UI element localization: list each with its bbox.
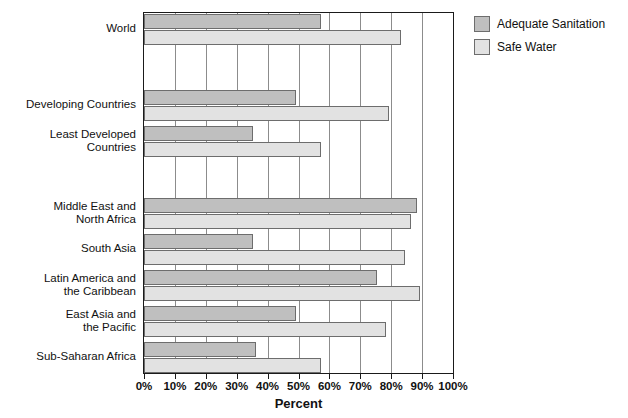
x-axis-title: Percent bbox=[143, 396, 454, 411]
category-label-2: Least Developed Countries bbox=[0, 128, 136, 155]
bar-water-row-4 bbox=[144, 250, 405, 265]
x-axis-tick-labels: 0%10%20%30%40%50%60%70%80%90%100% bbox=[143, 379, 454, 395]
bar-water-row-0 bbox=[144, 30, 401, 45]
bar-water-row-6 bbox=[144, 322, 386, 337]
category-label-5: Latin America and the Caribbean bbox=[0, 272, 136, 299]
tick-label-70pct: 70% bbox=[349, 379, 372, 393]
category-label-3: Middle East and North Africa bbox=[0, 200, 136, 227]
tick-label-50pct: 50% bbox=[287, 379, 310, 393]
category-label-4: South Asia bbox=[0, 242, 136, 256]
gridline-80pct bbox=[391, 13, 392, 373]
tick-label-90pct: 90% bbox=[411, 379, 434, 393]
category-axis-labels: WorldDeveloping CountriesLeast Developed… bbox=[0, 12, 136, 374]
bar-water-row-7 bbox=[144, 358, 321, 373]
bar-sanitation-row-0 bbox=[144, 14, 321, 29]
tick-label-60pct: 60% bbox=[318, 379, 341, 393]
bar-water-row-2 bbox=[144, 142, 321, 157]
tick-label-10pct: 10% bbox=[163, 379, 186, 393]
grouped-bar-chart: WorldDeveloping CountriesLeast Developed… bbox=[0, 0, 628, 418]
tick-label-20pct: 20% bbox=[194, 379, 217, 393]
plot-area bbox=[143, 12, 454, 374]
gridline-90pct bbox=[422, 13, 423, 373]
bar-sanitation-row-7 bbox=[144, 342, 256, 357]
gridline-50pct bbox=[299, 13, 300, 373]
bar-sanitation-row-5 bbox=[144, 270, 377, 285]
category-label-7: Sub-Saharan Africa bbox=[0, 350, 136, 364]
bar-water-row-5 bbox=[144, 286, 420, 301]
bar-sanitation-row-1 bbox=[144, 90, 296, 105]
legend-item-sanitation[interactable]: Adequate Sanitation bbox=[474, 16, 624, 32]
chart-legend: Adequate SanitationSafe Water bbox=[474, 16, 624, 62]
category-label-1: Developing Countries bbox=[0, 98, 136, 112]
gridline-60pct bbox=[329, 13, 330, 373]
legend-swatch-water-icon bbox=[474, 39, 490, 55]
legend-item-water[interactable]: Safe Water bbox=[474, 39, 624, 55]
legend-swatch-sanitation-icon bbox=[474, 16, 490, 32]
gridline-70pct bbox=[360, 13, 361, 373]
bar-water-row-1 bbox=[144, 106, 389, 121]
tick-label-80pct: 80% bbox=[380, 379, 403, 393]
legend-label-sanitation: Adequate Sanitation bbox=[497, 17, 605, 31]
category-label-0: World bbox=[0, 22, 136, 36]
bar-sanitation-row-4 bbox=[144, 234, 253, 249]
bar-sanitation-row-6 bbox=[144, 306, 296, 321]
tick-label-40pct: 40% bbox=[256, 379, 279, 393]
bar-water-row-3 bbox=[144, 214, 411, 229]
bar-sanitation-row-2 bbox=[144, 126, 253, 141]
tick-label-0pct: 0% bbox=[136, 379, 153, 393]
tick-label-30pct: 30% bbox=[225, 379, 248, 393]
category-label-6: East Asia and the Pacific bbox=[0, 308, 136, 335]
tick-label-100pct: 100% bbox=[438, 379, 467, 393]
bar-sanitation-row-3 bbox=[144, 198, 417, 213]
legend-label-water: Safe Water bbox=[497, 40, 557, 54]
